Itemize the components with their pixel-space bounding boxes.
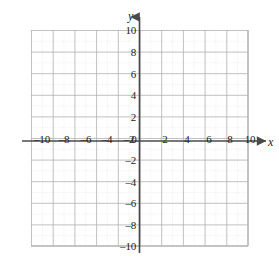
- y-tick-label-2: 2: [118, 112, 136, 123]
- x-tick-label-10: 10: [245, 134, 256, 145]
- y-tick-label-neg4: –4: [118, 177, 136, 188]
- x-tick-label-neg4: –4: [102, 134, 113, 145]
- y-tick-label-4: 4: [118, 90, 136, 101]
- x-axis-label: x: [268, 136, 273, 148]
- x-tick-label-neg6: –6: [81, 134, 92, 145]
- y-tick-label-neg10: –10: [115, 241, 136, 252]
- origin-label: 0: [131, 134, 136, 145]
- x-tick-label-4: 4: [184, 134, 189, 145]
- y-tick-label-6: 6: [118, 69, 136, 80]
- y-tick-label-neg8: –8: [118, 220, 136, 231]
- y-axis-label: y: [128, 10, 133, 22]
- x-tick-label-neg8: –8: [59, 134, 70, 145]
- y-tick-label-8: 8: [118, 47, 136, 58]
- coordinate-plane-svg: [0, 0, 279, 264]
- coordinate-grid-figure: –10 –8 –6 –4 –2 0 2 4 6 8 10 10 8 6 4 2 …: [0, 0, 279, 264]
- x-tick-label-6: 6: [206, 134, 211, 145]
- x-tick-label-2: 2: [162, 134, 167, 145]
- x-tick-label-8: 8: [227, 134, 232, 145]
- y-tick-label-neg6: –6: [118, 198, 136, 209]
- y-tick-label-neg2: –2: [118, 155, 136, 166]
- x-tick-label-neg10: –10: [34, 134, 50, 145]
- y-tick-label-10: 10: [118, 25, 136, 36]
